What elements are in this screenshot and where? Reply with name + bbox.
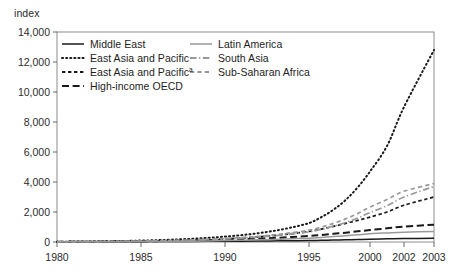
x-tick-label: 2003 bbox=[422, 251, 445, 263]
axis-ticks bbox=[53, 32, 434, 247]
legend-item-label: High-income OECD bbox=[90, 80, 183, 92]
y-tick-label: 4,000 bbox=[24, 176, 50, 188]
legend-footnote-marker: a bbox=[189, 66, 193, 73]
x-tick-label: 1985 bbox=[129, 251, 152, 263]
x-tick-label: 2000 bbox=[358, 251, 381, 263]
y-tick-label: 6,000 bbox=[24, 146, 50, 158]
y-tick-label: 8,000 bbox=[24, 116, 50, 128]
y-tick-label: 12,000 bbox=[18, 56, 50, 68]
x-tick-label: 1980 bbox=[45, 251, 68, 263]
series-line-1 bbox=[57, 50, 434, 242]
x-tick-label: 1990 bbox=[213, 251, 236, 263]
legend-item-label: South Asia bbox=[218, 52, 269, 64]
x-tick-label: 2002 bbox=[392, 251, 415, 263]
chart-figure: index 02,0004,0006,0008,00010,00012,0001… bbox=[0, 0, 457, 272]
y-tick-label: 14,000 bbox=[18, 26, 50, 38]
x-tick-label: 1995 bbox=[297, 251, 320, 263]
y-tick-label: 10,000 bbox=[18, 86, 50, 98]
legend-item-label: East Asia and Pacifica bbox=[90, 66, 193, 78]
series-group bbox=[57, 50, 434, 242]
legend-item-label: Latin America bbox=[218, 38, 282, 50]
y-tick-label: 2,000 bbox=[24, 206, 50, 218]
legend-item-label: Sub-Saharan Africa bbox=[218, 66, 310, 78]
legend-item-label: East Asia and Pacific bbox=[90, 52, 189, 64]
legend-item-label: Middle East bbox=[90, 38, 145, 50]
y-tick-label: 0 bbox=[44, 236, 50, 248]
